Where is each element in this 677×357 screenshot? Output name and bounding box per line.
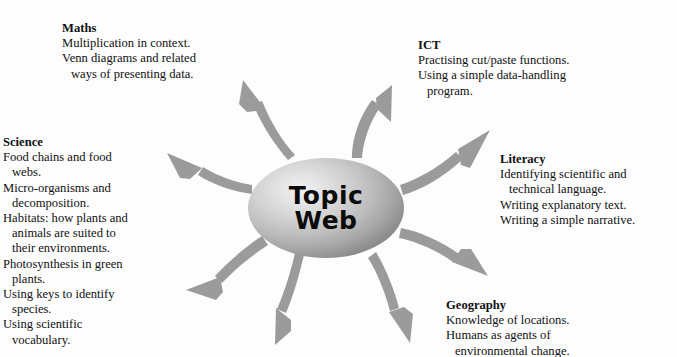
branch-line: ways of presenting data. (62, 67, 262, 82)
branch-science: ScienceFood chains and foodwebs.Micro-or… (3, 135, 171, 348)
branch-line: Humans as agents of (446, 328, 671, 343)
branch-heading-maths: Maths (62, 21, 262, 36)
branch-line: vocabulary. (3, 333, 171, 348)
branch-line: Practising cut/paste functions. (418, 53, 633, 68)
topic-web-hub: Topic Web (248, 158, 404, 258)
branch-line: Venn diagrams and related (62, 51, 262, 66)
branch-line: Micro-organisms and (3, 181, 171, 196)
branch-heading-geography: Geography (446, 298, 671, 313)
arrow-down-left-icon (275, 253, 304, 345)
branch-geography: GeographyKnowledge of locations.Humans a… (446, 298, 671, 357)
branch-line: decomposition. (3, 196, 171, 211)
arrow-to-geography-icon (399, 228, 488, 276)
arrow-to-science-icon (167, 153, 252, 194)
hub-label-line-1: Topic (289, 183, 364, 209)
arrow-down-right-icon (368, 252, 413, 343)
branch-line: Food chains and food (3, 150, 171, 165)
branch-line: Using a simple data-handling (418, 68, 633, 83)
branch-line: plants. (3, 272, 171, 287)
branch-line: program. (418, 84, 633, 99)
arrow-to-literacy-icon (400, 130, 490, 195)
branch-line: Photosynthesis in green (3, 257, 171, 272)
branch-literacy: LiteracyIdentifying scientific andtechni… (500, 152, 677, 228)
branch-line: Identifying scientific and (500, 167, 677, 182)
branch-line: Knowledge of locations. (446, 313, 671, 328)
branch-heading-science: Science (3, 135, 171, 150)
branch-maths: MathsMultiplication in context.Venn diag… (62, 21, 262, 82)
branch-line: environmental change. (446, 344, 671, 357)
hub-label-line-2: Web (294, 208, 357, 234)
branch-line: technical language. (500, 182, 677, 197)
arrow-down-left-outer-icon (186, 236, 268, 300)
branch-heading-ict: ICT (418, 38, 633, 53)
branch-line: Using keys to identify (3, 287, 171, 302)
branch-line: Writing explanatory text. (500, 198, 677, 213)
branch-line: Multiplication in context. (62, 36, 262, 51)
branch-ict: ICTPractising cut/paste functions.Using … (418, 38, 633, 99)
arrow-to-maths-icon (239, 80, 295, 160)
arrow-to-ict-icon (352, 85, 392, 158)
branch-line: animals are suited to (3, 226, 171, 241)
topic-web-diagram: Topic Web MathsMultiplication in context… (0, 0, 677, 357)
branch-line: Using scientific (3, 317, 171, 332)
branch-line: Writing a simple narrative. (500, 213, 677, 228)
branch-line: species. (3, 302, 171, 317)
branch-heading-literacy: Literacy (500, 152, 677, 167)
branch-line: webs. (3, 165, 171, 180)
branch-line: Habitats: how plants and (3, 211, 171, 226)
branch-line: their environments. (3, 241, 171, 256)
